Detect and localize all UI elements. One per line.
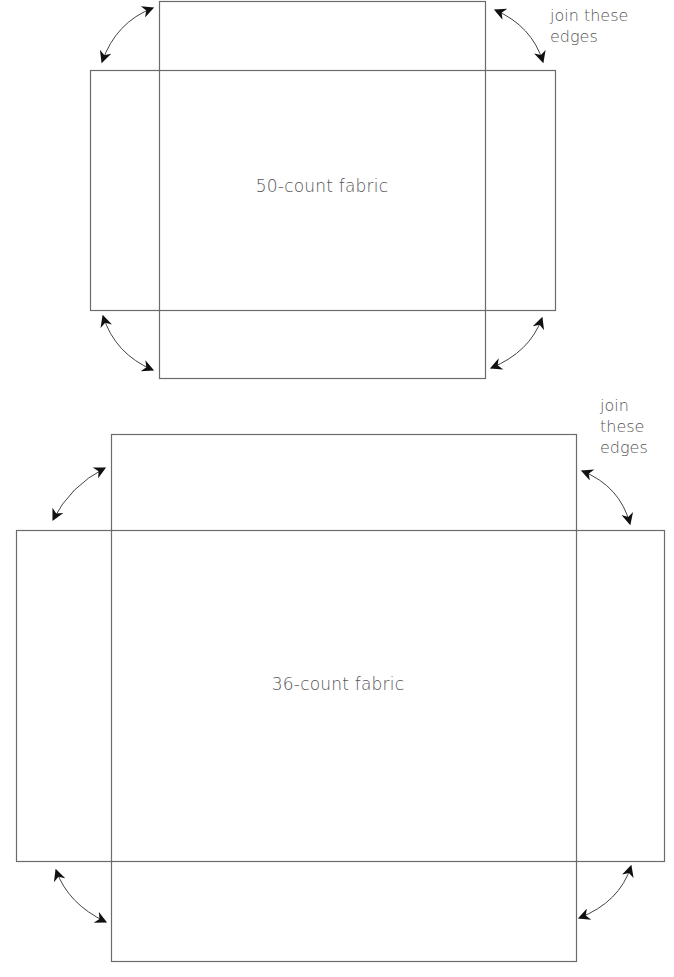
top-fabric-label: 50-count fabric	[256, 176, 388, 196]
bottom-join-note-line-2: these	[600, 416, 648, 437]
join-arrow-icon	[579, 866, 631, 918]
bottom-join-note-line-3: edges	[600, 437, 648, 458]
bottom-diagram	[17, 435, 665, 962]
top-join-note-line-1: join these	[550, 5, 628, 26]
join-arrow-icon	[53, 468, 105, 520]
join-arrow-icon	[103, 316, 153, 370]
bottom-center-panel	[112, 435, 577, 962]
join-arrow-icon	[56, 870, 106, 922]
join-arrow-icon	[491, 318, 542, 368]
bottom-fabric-label: 36-count fabric	[272, 674, 404, 694]
join-arrow-icon	[582, 471, 630, 524]
bottom-join-note-line-1: join	[600, 395, 648, 416]
bottom-side-band	[17, 531, 665, 862]
join-arrow-icon	[495, 10, 543, 62]
join-arrow-icon	[102, 8, 153, 62]
top-join-note-line-2: edges	[550, 26, 628, 47]
top-join-note: join these edges	[550, 5, 628, 47]
fabric-layout-diagram	[0, 0, 674, 977]
bottom-join-note: join these edges	[600, 395, 648, 458]
